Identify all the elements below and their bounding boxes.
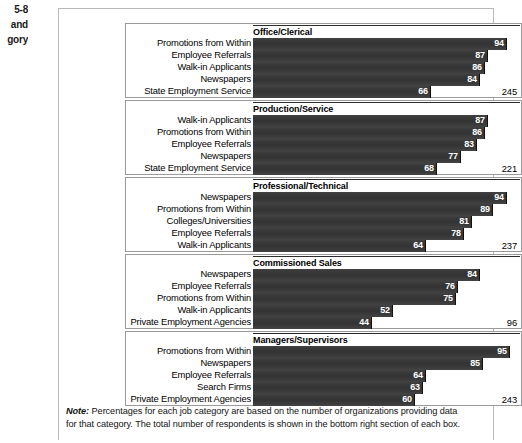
- bar: [253, 74, 480, 86]
- margin-caption-line-3: gory: [0, 32, 28, 47]
- bar-row: Promotions from Within94: [126, 38, 520, 50]
- chart-panel: Commissioned SalesNewspapers84Employee R…: [125, 254, 522, 329]
- panel-title: Commissioned Sales: [253, 256, 520, 269]
- bar: [253, 382, 423, 394]
- bar-category-label: Employee Referrals: [126, 369, 251, 381]
- bar: [253, 346, 510, 358]
- bar-track: 66: [253, 86, 520, 98]
- bar-track: 78: [253, 228, 520, 240]
- bar-row: Walk-in Applicants64: [126, 240, 520, 252]
- bar: [253, 38, 507, 50]
- figure-footnote: Note: Percentages for each job category …: [66, 405, 466, 430]
- panel-total-respondents: 237: [502, 240, 517, 251]
- bar: [253, 192, 507, 204]
- bar: [253, 127, 485, 139]
- bar: [253, 163, 437, 175]
- bar-category-label: Walk-in Applicants: [126, 304, 251, 316]
- bar-value-label: 77: [441, 151, 458, 163]
- bar-value-label: 94: [487, 38, 504, 50]
- bar-category-label: Promotions from Within: [126, 37, 251, 49]
- chart-panel: Office/ClericalPromotions from Within94E…: [125, 23, 522, 98]
- panel-title: Office/Clerical: [253, 25, 520, 38]
- bar-category-label: Newspapers: [126, 357, 251, 369]
- bar-track: 52: [253, 305, 520, 317]
- bar: [253, 370, 426, 382]
- panel-rows: Walk-in Applicants87Promotions from With…: [126, 115, 520, 174]
- bar-track: 95: [253, 346, 520, 358]
- margin-caption: 5-8 and gory: [0, 2, 28, 47]
- bar-value-label: 64: [406, 370, 423, 382]
- bar: [253, 139, 477, 151]
- bar-category-label: Newspapers: [126, 150, 251, 162]
- bar-value-label: 64: [406, 240, 423, 252]
- bar-value-label: 75: [436, 293, 453, 305]
- footnote-label: Note:: [66, 406, 89, 416]
- bar-row: Walk-in Applicants86: [126, 62, 520, 74]
- bar-track: 60: [253, 394, 520, 406]
- bar: [253, 216, 472, 228]
- bar-row: Newspapers77: [126, 151, 520, 163]
- bar: [253, 228, 464, 240]
- bar-category-label: Walk-in Applicants: [126, 239, 251, 251]
- bar-value-label: 84: [460, 269, 477, 281]
- bar-track: 84: [253, 74, 520, 86]
- margin-caption-line-2: and: [0, 17, 28, 32]
- panel-total-respondents: 245: [502, 86, 517, 97]
- bar-track: 77: [253, 151, 520, 163]
- bar-category-label: Promotions from Within: [126, 345, 251, 357]
- bar-category-label: Employee Referrals: [126, 227, 251, 239]
- bar-category-label: Promotions from Within: [126, 292, 251, 304]
- bar-category-label: Walk-in Applicants: [126, 61, 251, 73]
- panel-total-respondents: 243: [502, 394, 517, 405]
- bar-track: 94: [253, 192, 520, 204]
- bar-category-label: Private Employment Agencies: [126, 393, 251, 405]
- bar: [253, 293, 456, 305]
- bar-value-label: 78: [444, 228, 461, 240]
- bar-category-label: Employee Referrals: [126, 49, 251, 61]
- bar-category-label: Promotions from Within: [126, 126, 251, 138]
- margin-caption-line-1: 5-8: [0, 2, 28, 17]
- bar-value-label: 86: [465, 62, 482, 74]
- figure-frame: Office/ClericalPromotions from Within94E…: [58, 8, 494, 440]
- bar-value-label: 86: [465, 127, 482, 139]
- bar: [253, 305, 393, 317]
- bar-value-label: 84: [460, 74, 477, 86]
- chart-panel: Production/ServiceWalk-in Applicants87Pr…: [125, 100, 522, 175]
- panel-total-respondents: 221: [502, 163, 517, 174]
- bar-row: Newspapers84: [126, 74, 520, 86]
- bar-row: Promotions from Within95: [126, 346, 520, 358]
- panel-title: Production/Service: [253, 102, 520, 115]
- bar-category-label: State Employment Service: [126, 162, 251, 174]
- bar-value-label: 83: [457, 139, 474, 151]
- bar-track: 63: [253, 382, 520, 394]
- bar-value-label: 44: [352, 317, 369, 329]
- bar-category-label: Employee Referrals: [126, 280, 251, 292]
- bar-track: 76: [253, 281, 520, 293]
- bar-track: 64: [253, 240, 520, 252]
- bar: [253, 269, 480, 281]
- chart-panel: Managers/SupervisorsPromotions from With…: [125, 331, 522, 406]
- bar-track: 81: [253, 216, 520, 228]
- footnote-text: Percentages for each job category are ba…: [66, 406, 460, 429]
- bar-track: 87: [253, 115, 520, 127]
- bar-track: 68: [253, 163, 520, 175]
- bar-row: Promotions from Within86: [126, 127, 520, 139]
- bar-value-label: 68: [417, 163, 434, 175]
- bar: [253, 50, 488, 62]
- bar-value-label: 87: [468, 115, 485, 127]
- bar-row: Private Employment Agencies44: [126, 317, 520, 329]
- bar-value-label: 76: [438, 281, 455, 293]
- bar-value-label: 60: [395, 394, 412, 406]
- bar-value-label: 89: [473, 204, 490, 216]
- bar-row: Promotions from Within89: [126, 204, 520, 216]
- bar-track: 89: [253, 204, 520, 216]
- bar-row: Private Employment Agencies60: [126, 394, 520, 406]
- panel-title: Managers/Supervisors: [253, 333, 520, 346]
- bar-row: State Employment Service68: [126, 163, 520, 175]
- bar-track: 64: [253, 370, 520, 382]
- bar: [253, 240, 426, 252]
- bar-category-label: Search Firms: [126, 381, 251, 393]
- bar-category-label: Promotions from Within: [126, 203, 251, 215]
- bar-value-label: 63: [403, 382, 420, 394]
- bar-track: 44: [253, 317, 520, 329]
